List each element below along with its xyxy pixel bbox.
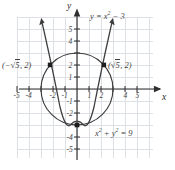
point-marker-vertex [75,123,80,128]
circle-equation-label: x2 + y2 = 9 [95,128,133,137]
left-point-close: , 2) [20,60,31,70]
y-tick-label-neg4: -4 [67,134,73,142]
point-marker-right [102,63,107,68]
parabola-eq-equals: = [96,11,102,21]
left-point-open: (− [2,60,11,70]
x-tick-label-1: 1 [88,92,92,100]
y-tick-label-4: 4 [69,38,73,46]
x-tick-label-neg2: -2 [50,92,56,100]
left-point-radical-group: √5 [11,60,20,69]
parabola-equation-label: y = x2 − 3 [90,11,125,20]
right-point-label: (√5, 2) [108,60,132,69]
x-axis-arrowhead [155,87,161,92]
circle-eq-plus: + [104,128,110,138]
x-tick-label-2: 2 [100,92,104,100]
graph-figure: -5 -4 -2 -1 1 2 4 5 5 4 2 1 -1 -2 -4 -5 … [0,0,175,170]
circle-eq-y-exponent: 2 [115,127,118,133]
parabola-eq-lhs: y [90,11,94,21]
y-axis-arrowhead [75,10,80,16]
x-tick-label-neg5: -5 [14,92,20,100]
circle-eq-x-exponent: 2 [99,127,102,133]
y-tick-label-neg5: -5 [67,146,73,154]
y-tick-label-5: 5 [69,26,73,34]
circle-eq-equals: = [120,128,126,138]
y-tick-label-1: 1 [69,74,73,82]
y-tick-label-neg1: -1 [67,98,73,106]
x-tick-label-4: 4 [124,92,128,100]
x-tick-label-neg4: -4 [26,92,32,100]
coordinate-plane-svg [0,0,175,170]
right-point-radical-group: √5 [111,60,120,69]
circle-eq-rhs: 9 [128,128,132,138]
right-point-close: , 2) [120,60,131,70]
y-tick-label-2: 2 [69,62,73,70]
parabola-eq-tail: − 3 [113,11,125,21]
x-tick-label-5: 5 [136,92,140,100]
parabola-eq-exponent: 2 [108,10,111,16]
y-tick-label-neg2: -2 [67,110,73,118]
point-marker-left [48,63,53,68]
left-point-radicand: 5 [15,59,20,70]
y-axis-label: y [67,2,71,12]
x-axis-label: x [162,93,166,103]
right-point-radicand: 5 [115,59,120,70]
axis-lines [19,10,160,160]
left-point-label: (−√5, 2) [2,60,31,69]
